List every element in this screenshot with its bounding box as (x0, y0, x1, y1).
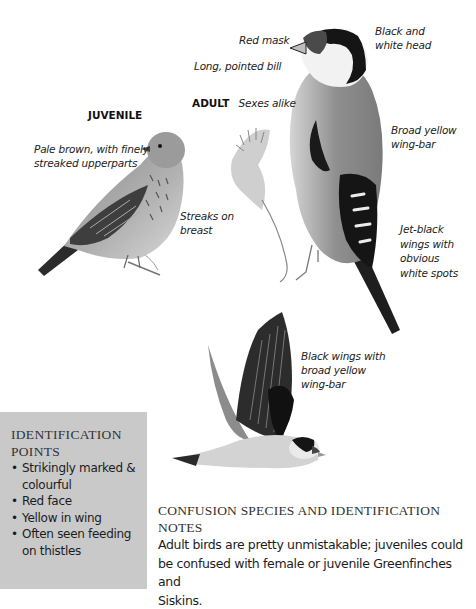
adult-wingbar-label-line1: Broad yellow (391, 123, 457, 137)
adult-subheading: Sexes alike (239, 97, 296, 109)
confusion-species-body-line2: be confused with female or juvenile Gree… (158, 555, 476, 592)
identification-points-title-line1: IDENTIFICATION (11, 426, 147, 443)
juvenile-upperparts-label-line2: streaked upperparts (34, 156, 149, 170)
confusion-species-body-line3: Siskins. (158, 592, 476, 609)
adult-bill-label: Long, pointed bill (194, 59, 281, 73)
adult-wings-label-line3: obvious (400, 251, 458, 266)
identification-point-text: Red face (22, 493, 147, 510)
confusion-species-body-line1: Adult birds are pretty unmistakable; juv… (158, 536, 476, 555)
juvenile-upperparts-label: Pale brown, with finely streaked upperpa… (34, 142, 149, 170)
confusion-species-title-line1: CONFUSION SPECIES AND IDENTIFICATION (158, 502, 476, 519)
adult-head-label: Black and white head (375, 24, 431, 52)
identification-point-item: Often seen feeding on thistles (11, 526, 147, 559)
juvenile-heading: JUVENILE (88, 109, 142, 121)
adult-wings-label-line1: Jet-black (400, 222, 458, 237)
adult-wingbar-label: Broad yellow wing-bar (391, 123, 457, 151)
identification-points-box: IDENTIFICATION POINTS Strikingly marked … (0, 412, 147, 589)
juvenile-upperparts-label-line1: Pale brown, with finely (34, 142, 149, 156)
identification-point-text: Often seen feeding (22, 526, 147, 543)
identification-point-text: Strikingly marked & (22, 460, 147, 477)
identification-point-text: Yellow in wing (22, 510, 147, 527)
juvenile-breast-label-line1: Streaks on (180, 209, 234, 223)
identification-points-title-line2: POINTS (11, 443, 147, 460)
adult-wings-label-line4: white spots (400, 266, 458, 281)
adult-head-label-line2: white head (375, 38, 431, 52)
flight-wings-label: Black wings with broad yellow wing-bar (301, 349, 385, 391)
adult-wingbar-label-line2: wing-bar (391, 137, 457, 151)
identification-point-text-cont: colourful (22, 477, 147, 494)
confusion-species-body: Adult birds are pretty unmistakable; juv… (158, 536, 476, 609)
identification-points-list: Strikingly marked & colourful Red face Y… (0, 460, 147, 559)
identification-point-item: Yellow in wing (11, 510, 147, 527)
identification-point-text-cont: on thistles (22, 543, 147, 560)
adult-head-label-line1: Black and (375, 24, 431, 38)
adult-heading: ADULT (192, 97, 229, 109)
juvenile-breast-label: Streaks on breast (180, 209, 234, 237)
identification-point-item: Strikingly marked & colourful (11, 460, 147, 493)
flight-wings-label-line2: broad yellow (301, 363, 385, 377)
adult-wings-label: Jet-black wings with obvious white spots (400, 222, 458, 280)
adult-heading-group: ADULT Sexes alike (192, 92, 296, 111)
flight-wings-label-line1: Black wings with (301, 349, 385, 363)
juvenile-breast-label-line2: breast (180, 223, 234, 237)
identification-point-item: Red face (11, 493, 147, 510)
adult-red-mask-label: Red mask (239, 33, 289, 47)
identification-points-title: IDENTIFICATION POINTS (11, 426, 147, 460)
confusion-species-title-line2: NOTES (158, 519, 476, 536)
adult-wings-label-line2: wings with (400, 237, 458, 252)
confusion-species-title: CONFUSION SPECIES AND IDENTIFICATION NOT… (158, 502, 476, 536)
confusion-species-section: CONFUSION SPECIES AND IDENTIFICATION NOT… (158, 502, 476, 609)
flight-wings-label-line3: wing-bar (301, 377, 385, 391)
